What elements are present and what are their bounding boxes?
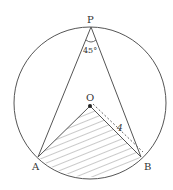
length-label: 4 [116,123,123,133]
angle-label: 45° [83,46,97,55]
label-O: O [86,92,94,103]
label-P: P [87,14,94,25]
label-B: B [144,161,151,172]
center-dot [88,104,92,108]
geometry-diagram: P O A B 45° 4 [0,0,173,190]
label-A: A [31,161,40,172]
angle-arc-P [86,40,96,42]
